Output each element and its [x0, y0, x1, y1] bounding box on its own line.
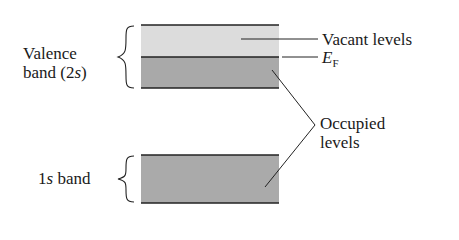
fermi-symbol: E	[322, 48, 332, 67]
1s-band-region	[141, 155, 279, 203]
occupied-label-line1: Occupied	[320, 114, 385, 133]
fermi-level-label: EF	[322, 48, 339, 69]
vacant-levels-region	[141, 25, 279, 57]
fermi-subscript: F	[332, 57, 338, 69]
valence-band-label: Valence band (2s)	[23, 44, 87, 82]
1s-brace-icon	[118, 156, 134, 202]
valence-label-line2: band (2s)	[23, 63, 87, 82]
occupied-label-line2: levels	[320, 133, 385, 152]
vacant-levels-label: Vacant levels	[322, 30, 412, 49]
1s-band-label: 1s band	[38, 169, 90, 188]
valence-label-line1: Valence	[23, 44, 87, 63]
1s-label-prefix: 1	[38, 169, 47, 188]
valence-label-prefix: band (2	[23, 63, 74, 82]
valence-occupied-region	[141, 57, 279, 88]
1s-label-suffix: band	[53, 169, 90, 188]
occupied-levels-label: Occupied levels	[320, 114, 385, 152]
valence-label-suffix: )	[81, 63, 87, 82]
valence-brace-icon	[118, 26, 134, 88]
